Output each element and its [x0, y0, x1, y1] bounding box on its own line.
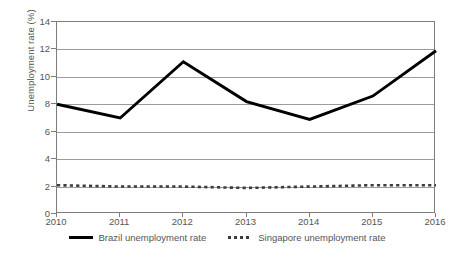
- y-axis-tick-label: 10: [24, 70, 50, 81]
- x-axis-tick-mark: [246, 213, 247, 217]
- x-axis-tick-mark: [56, 213, 57, 217]
- y-axis-tick-label: 14: [24, 16, 50, 27]
- series-line-brazil: [57, 51, 436, 120]
- legend-item-singapore: Singapore unemployment rate: [228, 232, 385, 243]
- x-axis-tick-label: 2010: [36, 216, 76, 227]
- series-line-singapore: [57, 185, 436, 188]
- y-axis-tick-label: 12: [24, 43, 50, 54]
- y-axis-tick-label: 6: [24, 125, 50, 136]
- x-axis-tick-label: 2014: [289, 216, 329, 227]
- x-axis-tick-mark: [435, 213, 436, 217]
- series-group: [57, 22, 436, 214]
- x-axis-tick-mark: [372, 213, 373, 217]
- y-axis-tick-label: 4: [24, 153, 50, 164]
- plot-area: [56, 21, 435, 213]
- x-axis-tick-mark: [309, 213, 310, 217]
- legend-label-singapore: Singapore unemployment rate: [258, 232, 385, 243]
- legend-label-brazil: Brazil unemployment rate: [99, 232, 207, 243]
- x-axis-tick-mark: [119, 213, 120, 217]
- x-axis-tick-label: 2012: [162, 216, 202, 227]
- dotted-line-marker-icon: [228, 236, 252, 239]
- solid-line-marker-icon: [69, 236, 93, 239]
- x-axis-tick-label: 2015: [352, 216, 392, 227]
- x-axis-tick-label: 2016: [415, 216, 454, 227]
- legend-item-brazil: Brazil unemployment rate: [69, 232, 207, 243]
- x-axis-tick-label: 2011: [99, 216, 139, 227]
- unemployment-rate-line-chart: Unemployment rate (%) 02468101214 201020…: [0, 0, 454, 259]
- chart-legend: Brazil unemployment rate Singapore unemp…: [0, 232, 454, 243]
- x-axis-tick-mark: [182, 213, 183, 217]
- y-axis-tick-label: 8: [24, 98, 50, 109]
- x-axis-tick-label: 2013: [226, 216, 266, 227]
- y-axis-tick-label: 2: [24, 180, 50, 191]
